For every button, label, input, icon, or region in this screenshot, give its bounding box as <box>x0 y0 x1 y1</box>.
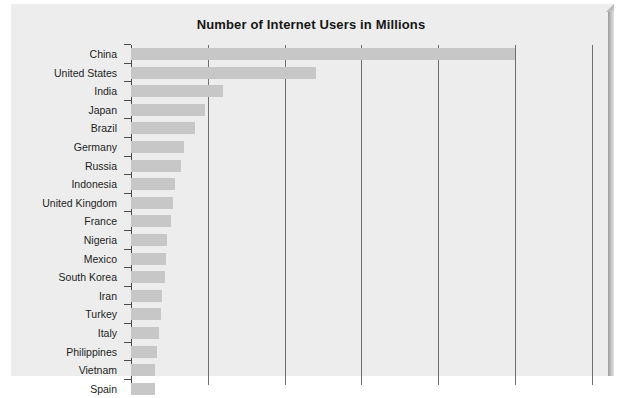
category-label-south-korea: South Korea <box>0 268 124 287</box>
y-axis-tick <box>124 118 131 119</box>
category-label-mexico: Mexico <box>0 250 124 269</box>
bar-iran <box>131 290 162 302</box>
bar-italy <box>131 327 159 339</box>
bar-united-states <box>131 67 316 79</box>
y-axis-tick <box>124 193 131 194</box>
bar-row <box>131 119 611 138</box>
bar-row <box>131 231 611 250</box>
category-label-vietnam: Vietnam <box>0 361 124 380</box>
bar-row <box>131 45 611 64</box>
category-label-brazil: Brazil <box>0 119 124 138</box>
y-axis-tick <box>124 379 131 380</box>
bar-row <box>131 343 611 362</box>
y-axis-tick <box>124 63 131 64</box>
bar-row <box>131 305 611 324</box>
y-axis-tick <box>124 267 131 268</box>
category-label-india: India <box>0 82 124 101</box>
y-axis-tick <box>124 44 131 45</box>
bar-spain <box>131 383 155 395</box>
bar-brazil <box>131 122 195 134</box>
category-label-nigeria: Nigeria <box>0 231 124 250</box>
bar-row <box>131 380 611 398</box>
bar-france <box>131 215 171 227</box>
bar-japan <box>131 104 205 116</box>
bar-united-kingdom <box>131 197 173 209</box>
bar-row <box>131 82 611 101</box>
y-axis-tick <box>124 137 131 138</box>
category-label-russia: Russia <box>0 157 124 176</box>
category-label-united-states: United States <box>0 64 124 83</box>
category-label-iran: Iran <box>0 287 124 306</box>
y-axis-tick <box>124 174 131 175</box>
category-label-indonesia: Indonesia <box>0 175 124 194</box>
bar-row <box>131 250 611 269</box>
bar-indonesia <box>131 178 175 190</box>
bar-china <box>131 48 515 60</box>
y-axis-tick <box>124 342 131 343</box>
bar-row <box>131 157 611 176</box>
bar-india <box>131 85 223 97</box>
category-label-united-kingdom: United Kingdom <box>0 194 124 213</box>
bar-row <box>131 194 611 213</box>
bar-turkey <box>131 308 161 320</box>
bar-row <box>131 138 611 157</box>
category-label-france: France <box>0 212 124 231</box>
bar-row <box>131 64 611 83</box>
bar-row <box>131 324 611 343</box>
bar-russia <box>131 160 181 172</box>
y-axis-category-labels: ChinaUnited StatesIndiaJapanBrazilGerman… <box>0 45 124 385</box>
plot-area <box>131 45 611 385</box>
category-label-philippines: Philippines <box>0 343 124 362</box>
bar-south-korea <box>131 271 165 283</box>
category-label-turkey: Turkey <box>0 305 124 324</box>
bar-row <box>131 361 611 380</box>
y-axis-tick <box>124 323 131 324</box>
category-label-germany: Germany <box>0 138 124 157</box>
y-axis-tick <box>124 360 131 361</box>
y-axis-tick <box>124 286 131 287</box>
bar-row <box>131 287 611 306</box>
category-label-china: China <box>0 45 124 64</box>
bar-germany <box>131 141 184 153</box>
y-axis-tick <box>124 156 131 157</box>
bar-row <box>131 175 611 194</box>
bar-row <box>131 101 611 120</box>
bar-row <box>131 212 611 231</box>
category-label-spain: Spain <box>0 380 124 398</box>
bar-rows <box>131 45 611 385</box>
y-axis-tick <box>124 81 131 82</box>
y-axis-tick <box>124 304 131 305</box>
bar-vietnam <box>131 364 155 376</box>
category-label-italy: Italy <box>0 324 124 343</box>
y-axis-tick <box>124 100 131 101</box>
y-axis-tick <box>124 211 131 212</box>
chart-title: Number of Internet Users in Millions <box>11 17 611 32</box>
card-shadow-corner <box>606 4 614 12</box>
y-axis-tick <box>124 249 131 250</box>
y-axis-tick <box>124 230 131 231</box>
bar-nigeria <box>131 234 167 246</box>
category-label-japan: Japan <box>0 101 124 120</box>
bar-philippines <box>131 346 157 358</box>
bar-mexico <box>131 253 166 265</box>
bar-row <box>131 268 611 287</box>
